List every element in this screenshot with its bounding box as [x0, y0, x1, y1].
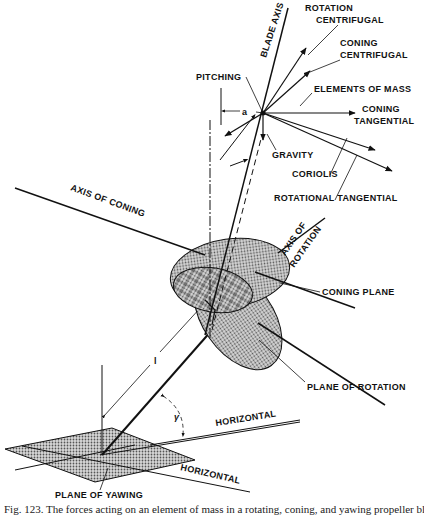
label-coriolis: CORIOLIS	[292, 169, 338, 179]
label-axis-of-coning: AXIS OF CONING	[69, 182, 146, 218]
shaft-line	[102, 330, 212, 455]
svg-text:CENTRIFUGAL: CENTRIFUGAL	[316, 15, 384, 25]
label-horizontal-lower: HORIZONTAL	[180, 462, 242, 486]
angle-gamma: γ	[163, 396, 183, 435]
dimension-l: l	[104, 306, 202, 416]
label-rotation-centrifugal: ROTATION	[305, 3, 353, 13]
svg-text:CENTRIFUGAL: CENTRIFUGAL	[340, 50, 408, 60]
label-rotational-tangential: ROTATIONAL TANGENTIAL	[274, 193, 398, 203]
label-coning-centrifugal: CONING	[340, 38, 378, 48]
symbol-gamma: γ	[174, 412, 180, 422]
svg-text:TANGENTIAL: TANGENTIAL	[354, 116, 415, 126]
label-elements-of-mass: ELEMENTS OF MASS	[314, 84, 411, 94]
symbol-l: l	[154, 356, 157, 366]
label-pitching: PITCHING	[196, 72, 241, 82]
label-coning-tangential: CONING	[362, 104, 400, 114]
label-plane-of-rotation: PLANE OF ROTATION	[307, 382, 406, 392]
label-coning-plane: CONING PLANE	[322, 287, 395, 297]
plane-of-yawing	[5, 365, 300, 492]
label-blade-axis: BLADE AXIS	[258, 1, 285, 58]
figure-caption: Fig. 123. The forces acting on an elemen…	[4, 503, 424, 515]
dimension-a: a	[221, 88, 263, 125]
label-gravity: GRAVITY	[272, 150, 313, 160]
symbol-a: a	[242, 107, 248, 117]
label-plane-of-yawing: PLANE OF YAWING	[55, 490, 143, 500]
